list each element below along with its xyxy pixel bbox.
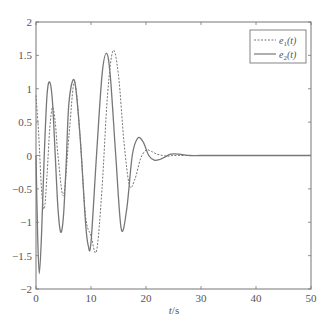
y-tick-label: 1 [27,83,33,95]
x-tick-label: 50 [306,292,318,304]
y-tick-label: −2 [20,283,32,295]
y-tick-label: 0 [27,150,33,162]
y-tick-label: −1 [20,216,32,228]
y-tick-label: 0.5 [18,116,32,128]
legend: e1(t) e2(t) [250,30,306,63]
y-tick-label: −1.5 [12,250,32,262]
series-line-e1t [36,50,311,253]
y-tick-label: 2 [27,16,33,28]
legend-box [250,30,306,63]
y-tick-label: −0.5 [12,183,32,195]
plot-lines [36,50,311,273]
x-tick-label: 0 [33,292,39,304]
x-tick-label: 20 [141,292,153,304]
x-tick-label: 30 [196,292,208,304]
x-tick-label: 40 [251,292,263,304]
y-tick-labels: −2−1.5−1−0.500.511.52 [12,16,32,295]
series-line-e2t [36,53,311,273]
line-chart: −2−1.5−1−0.500.511.52 01020304050 t/s e1… [0,0,332,331]
x-tick-labels: 01020304050 [33,292,317,304]
x-axis-label: t/s [169,304,179,316]
chart-container: −2−1.5−1−0.500.511.52 01020304050 t/s e1… [0,0,332,331]
y-tick-label: 1.5 [18,49,32,61]
x-tick-label: 10 [86,292,98,304]
